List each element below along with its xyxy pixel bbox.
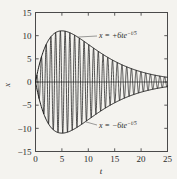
x-tick-label: 25	[163, 154, 173, 164]
figure-container: −15−10−5051015 0510152025 x=+6te−t/5 x=−…	[0, 0, 177, 179]
x-tick-label: 20	[137, 154, 147, 164]
damped-oscillation-chart: −15−10−5051015 0510152025 x=+6te−t/5 x=−…	[0, 0, 177, 179]
y-tick-label: 5	[27, 54, 32, 64]
upper-ann-eq: =	[105, 31, 110, 40]
upper-ann-rhs: +6te	[112, 31, 128, 40]
x-tick-label: 10	[84, 154, 94, 164]
lower-ann-rhs: −6te	[112, 121, 128, 130]
y-tick-label: 10	[23, 31, 33, 41]
lower-ann-lhs: x	[98, 121, 103, 130]
x-tick-label: 5	[60, 154, 65, 164]
y-axis-title: x	[2, 83, 12, 88]
y-tick-label: 15	[23, 8, 33, 18]
lower-ann-exponent: −t/5	[127, 120, 137, 126]
upper-ann-exponent: −t/5	[127, 30, 137, 36]
x-tick-label: 0	[33, 154, 38, 164]
y-tick-label: −10	[17, 124, 32, 134]
y-tick-label: −5	[22, 100, 32, 110]
lower-ann-eq: =	[105, 121, 110, 130]
x-tick-label: 15	[110, 154, 120, 164]
upper-ann-lhs: x	[98, 31, 103, 40]
y-tick-label: −15	[17, 147, 32, 157]
y-tick-label: 0	[27, 77, 32, 87]
